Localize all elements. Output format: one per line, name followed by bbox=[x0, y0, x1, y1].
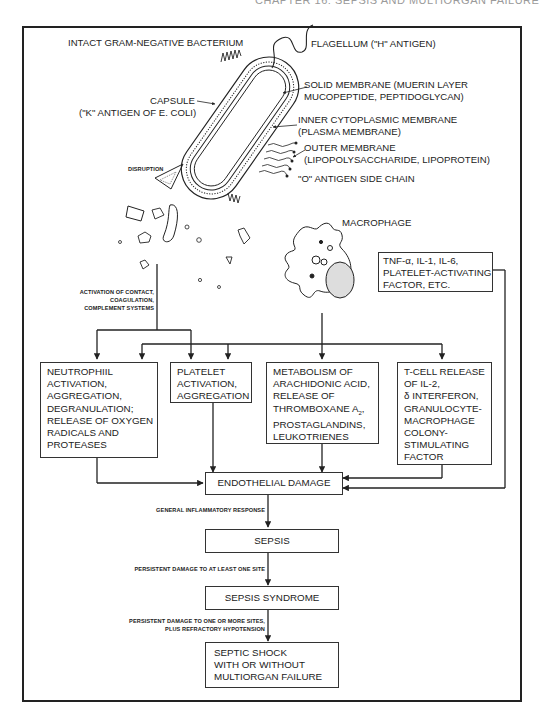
sepsis-text: SEPSIS bbox=[254, 535, 289, 547]
cytokines-box: TNF-α, IL-1, IL-6, PLATELET-ACTIVATING F… bbox=[378, 252, 493, 292]
box-line: RELEASE OF bbox=[273, 390, 372, 402]
cytokines-line: FACTOR, ETC. bbox=[383, 279, 488, 291]
platelet-box: PLATELET ACTIVATION, AGGREGATION bbox=[170, 362, 252, 403]
sepsis-syndrome-text: SEPSIS SYNDROME bbox=[225, 592, 320, 604]
box-line: AGGREGATION bbox=[177, 390, 245, 402]
inner-membrane-label-2: (PLASMA MEMBRANE) bbox=[298, 126, 401, 138]
box-line: ACTIVATION, bbox=[47, 378, 151, 390]
inner-membrane-label: INNER CYTOPLASMIC MEMBRANE bbox=[298, 114, 457, 126]
activation-line: ACTIVATION OF CONTACT, bbox=[68, 289, 154, 297]
activation-line: COAGULATION, bbox=[68, 297, 154, 305]
box-line: PLATELET bbox=[177, 366, 245, 378]
cytokines-line: PLATELET-ACTIVATING bbox=[383, 267, 488, 279]
endothelial-damage-box: ENDOTHELIAL DAMAGE bbox=[205, 472, 343, 495]
bacterium-illustration bbox=[119, 25, 314, 289]
septic-shock-box: SEPTIC SHOCK WITH OR WITHOUT MULTIORGAN … bbox=[205, 642, 339, 688]
arachidonic-box: METABOLISM OF ARACHIDONIC ACID, RELEASE … bbox=[266, 362, 379, 444]
box-line: THROMBOXANE A2, bbox=[273, 403, 372, 419]
capsule-label-2: ("K" ANTIGEN OF E. COLI) bbox=[79, 107, 196, 119]
box-line: MACROPHAGE bbox=[404, 415, 485, 427]
box-line: GRANULOCYTE- bbox=[404, 403, 485, 415]
box-line: FACTOR bbox=[404, 451, 485, 463]
box-line: OF IL-2, bbox=[404, 378, 485, 390]
box-line: T-CELL RELEASE bbox=[404, 366, 485, 378]
bacterium-title: INTACT GRAM-NEGATIVE BACTERIUM bbox=[68, 37, 243, 49]
neutrophil-box: NEUTROPHIIL ACTIVATION, AGGREGATION, DEG… bbox=[40, 362, 158, 458]
box-line: COLONY- bbox=[404, 427, 485, 439]
cytokines-line: TNF-α, IL-1, IL-6, bbox=[383, 255, 488, 267]
box-line: SEPTIC SHOCK bbox=[214, 647, 330, 659]
box-line: MULTIORGAN FAILURE bbox=[214, 671, 330, 683]
activation-line: COMPLEMENT SYSTEMS bbox=[68, 305, 154, 313]
thromboxane-text: THROMBOXANE A bbox=[273, 403, 358, 414]
tcell-box: T-CELL RELEASE OF IL-2, δ INTERFERON, GR… bbox=[397, 362, 492, 465]
sepsis-syndrome-box: SEPSIS SYNDROME bbox=[205, 586, 339, 610]
box-line: DEGRANULATION; bbox=[47, 403, 151, 415]
sepsis-box: SEPSIS bbox=[205, 529, 339, 553]
capsule-label: CAPSULE bbox=[150, 95, 195, 107]
flagellum-label: FLAGELLUM ("H" ANTIGEN) bbox=[311, 38, 436, 50]
arrow-label-line: PERSISTENT DAMAGE TO ONE OR MORE SITES, bbox=[40, 618, 265, 626]
box-line: RELEASE OF OXYGEN bbox=[47, 415, 151, 427]
macrophage-illustration bbox=[285, 223, 354, 298]
solid-membrane-label: SOLID MEMBRANE (MUERIN LAYER bbox=[304, 79, 468, 91]
activation-label: ACTIVATION OF CONTACT, COAGULATION, COMP… bbox=[68, 289, 154, 312]
subscript: 2 bbox=[358, 410, 361, 416]
outer-membrane-label: OUTER MEMBRANE bbox=[304, 142, 396, 154]
box-line: RADICALS AND bbox=[47, 427, 151, 439]
disruption-label: DISRUPTION bbox=[128, 166, 164, 174]
endothelial-damage-text: ENDOTHELIAL DAMAGE bbox=[218, 477, 331, 489]
box-line: δ INTERFERON, bbox=[404, 390, 485, 402]
outer-membrane-label-2: (LIPOPOLYSACCHARIDE, LIPOPROTEIN) bbox=[304, 154, 490, 166]
macrophage-label: MACROPHAGE bbox=[342, 217, 411, 229]
box-line: STIMULATING bbox=[404, 439, 485, 451]
box-line: LEUKOTRIENES bbox=[273, 431, 372, 443]
arrow-label-persistent: PERSISTENT DAMAGE TO AT LEAST ONE SITE bbox=[40, 566, 265, 574]
box-line: PROTEASES bbox=[47, 439, 151, 451]
flagellum bbox=[272, 25, 313, 68]
box-line: METABOLISM OF bbox=[273, 366, 372, 378]
box-line: PROSTAGLANDINS, bbox=[273, 419, 372, 431]
box-line: AGGREGATION, bbox=[47, 390, 151, 402]
box-line: NEUTROPHIIL bbox=[47, 366, 151, 378]
box-line: ARACHIDONIC ACID, bbox=[273, 378, 372, 390]
arrow-label-refractory: PERSISTENT DAMAGE TO ONE OR MORE SITES, … bbox=[40, 618, 265, 634]
arrow-label-inflammatory: GENERAL INFLAMMATORY RESPONSE bbox=[60, 507, 265, 515]
arrow-label-line: PLUS REFRACTORY HYPOTENSION bbox=[40, 626, 265, 634]
solid-membrane-label-2: MUCOPEPTIDE, PEPTIDOGLYCAN) bbox=[304, 91, 464, 103]
box-line: ACTIVATION, bbox=[177, 378, 245, 390]
o-antigen-label: "O" ANTIGEN SIDE CHAIN bbox=[298, 173, 415, 185]
box-line: WITH OR WITHOUT bbox=[214, 659, 330, 671]
